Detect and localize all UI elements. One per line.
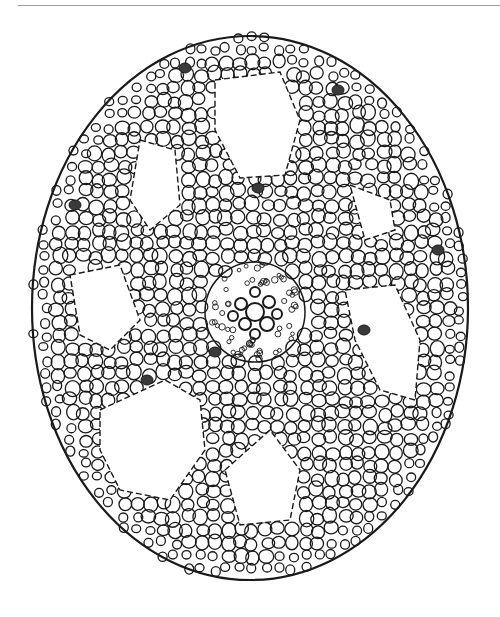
- cell: [301, 523, 313, 536]
- cell: [94, 136, 103, 144]
- cell: [206, 252, 220, 264]
- stem-cross-section-illustration: [0, 0, 500, 617]
- cell: [87, 146, 101, 161]
- cell: [271, 408, 283, 421]
- cell: [171, 302, 183, 315]
- dark-cell: [432, 245, 444, 255]
- cell: [405, 274, 418, 288]
- cell: [314, 456, 327, 470]
- cell: [219, 169, 233, 184]
- cell: [182, 130, 197, 145]
- cell: [116, 196, 129, 209]
- cell: [429, 314, 441, 327]
- cell: [104, 125, 113, 134]
- cell: [339, 397, 353, 409]
- cell: [454, 316, 463, 324]
- cell: [379, 275, 391, 287]
- cell: [322, 367, 334, 378]
- cell: [298, 420, 310, 432]
- cell: [78, 367, 91, 381]
- cell: [196, 171, 210, 186]
- cell: [417, 417, 429, 430]
- cell: [430, 301, 445, 314]
- cell: [285, 264, 299, 279]
- cell: [299, 497, 312, 512]
- cell: [350, 117, 364, 133]
- xylem-vessel: [260, 317, 274, 331]
- cell: [339, 222, 353, 235]
- cell: [377, 430, 392, 443]
- cell: [246, 407, 259, 420]
- cell: [236, 45, 245, 55]
- cell: [115, 145, 127, 157]
- cell: [272, 228, 284, 239]
- cell: [430, 382, 444, 394]
- cell: [326, 251, 339, 264]
- cell: [118, 109, 127, 117]
- cell: [107, 486, 116, 495]
- cell: [445, 383, 454, 391]
- cell: [445, 372, 454, 380]
- cell: [339, 198, 352, 211]
- cell: [286, 565, 295, 575]
- cell: [208, 367, 221, 379]
- cell: [350, 511, 363, 523]
- cell: [418, 226, 431, 238]
- cell: [103, 497, 112, 506]
- cell: [413, 279, 426, 292]
- cell: [259, 550, 274, 564]
- cell: [301, 458, 313, 471]
- cell: [196, 550, 205, 559]
- cell: [260, 365, 273, 379]
- cell: [53, 380, 62, 390]
- cell: [324, 171, 337, 183]
- cell: [231, 210, 245, 224]
- cell: [283, 390, 298, 406]
- cell: [95, 488, 104, 497]
- cell: [147, 72, 156, 81]
- cell: [231, 405, 245, 419]
- cell: [92, 459, 104, 470]
- cell: [68, 163, 77, 171]
- cell: [118, 339, 131, 353]
- cell: [195, 70, 209, 83]
- cell: [64, 186, 73, 194]
- cell: [338, 97, 353, 110]
- cell: [119, 498, 132, 511]
- dark-cell: [332, 85, 344, 95]
- cell: [311, 299, 326, 314]
- cell: [377, 497, 386, 506]
- cell: [429, 394, 443, 407]
- cell: [387, 156, 401, 172]
- cell: [338, 314, 351, 328]
- cell: [39, 241, 48, 249]
- cell: [419, 434, 428, 443]
- cell: [222, 249, 235, 264]
- cell: [192, 287, 206, 301]
- cell: [167, 313, 180, 326]
- cell: [40, 252, 49, 260]
- cell: [263, 563, 272, 572]
- cell: [457, 280, 466, 289]
- cell: [131, 498, 144, 511]
- xylem-vessel: [250, 329, 260, 339]
- cell: [196, 327, 208, 339]
- cell: [102, 148, 115, 162]
- cell: [141, 120, 153, 133]
- cell: [270, 421, 284, 434]
- cell: [350, 434, 364, 447]
- cell: [183, 303, 196, 316]
- dark-cell: [358, 325, 370, 335]
- cell: [76, 408, 89, 420]
- cell: [169, 107, 183, 119]
- cell: [246, 225, 261, 238]
- cell: [42, 333, 51, 341]
- cell: [428, 327, 442, 340]
- cell: [220, 42, 229, 52]
- cell: [446, 329, 455, 338]
- cell: [455, 342, 464, 352]
- cell: [340, 354, 352, 365]
- cell: [446, 355, 455, 363]
- cell: [101, 247, 116, 263]
- cell: [430, 341, 444, 357]
